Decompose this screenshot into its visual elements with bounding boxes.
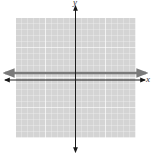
coordinate-plane (0, 0, 151, 155)
x-axis-label: x (146, 75, 150, 84)
y-axis-label: y (73, 0, 77, 7)
